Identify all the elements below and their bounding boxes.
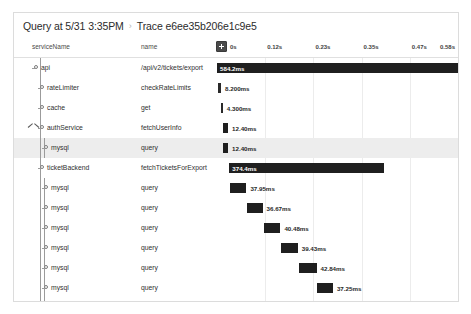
- span-toggle-dot[interactable]: [44, 225, 48, 229]
- span-operation-name: query: [141, 224, 158, 231]
- span-row[interactable]: mysqlquery12.40ms: [14, 138, 458, 158]
- chevron-up-icon[interactable]: [28, 124, 37, 130]
- span-service-name: api: [41, 64, 50, 71]
- span-toggle-dot[interactable]: [40, 85, 44, 89]
- span-row[interactable]: mysqlquery37.95ms: [14, 178, 458, 198]
- tree-guide-line: [40, 238, 41, 258]
- span-duration-label: 4.300ms: [227, 105, 251, 112]
- span-row[interactable]: authServicefetchUserInfo12.40ms: [14, 118, 458, 138]
- span-service-name: mysql: [51, 224, 69, 231]
- span-duration-bar[interactable]: [223, 143, 228, 153]
- column-header-service-name: serviceName: [32, 43, 70, 50]
- span-service-name: mysql: [51, 144, 69, 151]
- span-row[interactable]: mysqlquery35.92ms: [14, 298, 458, 302]
- breadcrumb-separator-icon: ›: [129, 21, 132, 31]
- timeline-tick-label: 0.58s: [440, 44, 455, 50]
- span-service-name: mysql: [51, 284, 69, 291]
- span-duration-label: 39.43ms: [302, 245, 326, 252]
- span-rows: api/api/v2/tickets/export584.2msrateLimi…: [14, 58, 458, 301]
- span-row[interactable]: mysqlquery36.67ms: [14, 198, 458, 218]
- breadcrumb-trace-title: Trace e6ee35b206e1c9e5: [137, 20, 257, 32]
- span-duration-label: 37.95ms: [250, 185, 274, 192]
- tree-guide-line: [40, 138, 41, 158]
- span-operation-name: query: [141, 264, 158, 271]
- span-duration-label: 40.48ms: [284, 225, 308, 232]
- span-operation-name: query: [141, 204, 158, 211]
- timeline-ruler: 0s0.12s0.23s0.35s0.47s0.58s: [217, 38, 458, 57]
- timeline-tick-label: 0.23s: [315, 44, 330, 50]
- span-toggle-dot[interactable]: [44, 205, 48, 209]
- timeline-tick-label: 0.35s: [364, 44, 379, 50]
- span-service-name: cache: [47, 104, 65, 111]
- span-row[interactable]: mysqlquery40.48ms: [14, 218, 458, 238]
- tree-guide-line: [44, 298, 45, 302]
- span-service-name: mysql: [51, 264, 69, 271]
- span-operation-name: get: [141, 104, 150, 111]
- timeline-gridline: [458, 58, 459, 301]
- timeline-tick-label: 0s: [230, 44, 237, 50]
- span-operation-name: query: [141, 184, 158, 191]
- span-toggle-dot[interactable]: [40, 105, 44, 109]
- span-operation-name: /api/v2/tickets/export: [141, 64, 203, 71]
- span-toggle-dot[interactable]: [44, 285, 48, 289]
- tree-guide-line: [40, 278, 41, 298]
- span-service-name: rateLimiter: [47, 84, 79, 91]
- tree-guide-line: [40, 198, 41, 218]
- tree-guide-line: [40, 178, 41, 198]
- span-duration-bar[interactable]: [264, 223, 281, 233]
- span-duration-bar[interactable]: [223, 123, 228, 133]
- span-duration-label: 37.25ms: [337, 285, 361, 292]
- span-duration-label: 12.40ms: [232, 145, 256, 152]
- span-row[interactable]: cacheget4.300ms: [14, 98, 458, 118]
- span-duration-label: 374.4ms: [232, 165, 256, 172]
- span-row[interactable]: mysqlquery39.43ms: [14, 238, 458, 258]
- span-toggle-dot[interactable]: [40, 165, 44, 169]
- span-duration-label: 12.40ms: [232, 125, 256, 132]
- span-duration-bar[interactable]: [281, 243, 297, 253]
- span-operation-name: query: [141, 284, 158, 291]
- span-duration-bar[interactable]: [221, 103, 223, 113]
- span-duration-bar[interactable]: [299, 263, 317, 273]
- span-operation-name: fetchUserInfo: [141, 124, 181, 131]
- span-duration-bar[interactable]: [218, 83, 221, 93]
- span-duration-bar[interactable]: [317, 283, 332, 293]
- span-duration-bar[interactable]: [247, 203, 262, 213]
- span-service-name: mysql: [51, 244, 69, 251]
- span-duration-label: 8.200ms: [225, 85, 249, 92]
- span-service-name: ticketBackend: [47, 164, 89, 171]
- span-duration-label: 36.67ms: [267, 205, 291, 212]
- span-duration-bar[interactable]: [230, 183, 246, 193]
- timeline-tick-label: 0.12s: [267, 44, 282, 50]
- span-toggle-dot[interactable]: [44, 145, 48, 149]
- span-row[interactable]: rateLimitercheckRateLimits8.200ms: [14, 78, 458, 98]
- span-service-name: mysql: [51, 204, 69, 211]
- column-header-name: name: [141, 43, 157, 50]
- timeline-tick-label: 0.47s: [412, 44, 427, 50]
- span-operation-name: query: [141, 244, 158, 251]
- breadcrumb: Query at 5/31 3:35PM › Trace e6ee35b206e…: [14, 13, 458, 38]
- span-row[interactable]: api/api/v2/tickets/export584.2ms: [14, 58, 458, 78]
- breadcrumb-query-link[interactable]: Query at 5/31 3:35PM: [23, 20, 124, 32]
- tree-guide-line: [40, 298, 41, 302]
- trace-card: Query at 5/31 3:35PM › Trace e6ee35b206e…: [13, 12, 459, 302]
- span-toggle-dot[interactable]: [44, 185, 48, 189]
- span-row[interactable]: mysqlquery42.84ms: [14, 258, 458, 278]
- trace-detail-page: Query at 5/31 3:35PM › Trace e6ee35b206e…: [0, 0, 471, 314]
- span-duration-label: 584.2ms: [220, 65, 244, 72]
- span-operation-name: fetchTicketsForExport: [141, 164, 207, 171]
- span-toggle-dot[interactable]: [34, 65, 38, 69]
- tree-guide-line: [40, 218, 41, 238]
- span-operation-name: checkRateLimits: [141, 84, 191, 91]
- span-toggle-dot[interactable]: [44, 245, 48, 249]
- tree-guide-line: [40, 258, 41, 278]
- span-row[interactable]: ticketBackendfetchTicketsForExport374.4m…: [14, 158, 458, 178]
- span-service-name: mysql: [51, 184, 69, 191]
- span-service-name: authService: [47, 124, 83, 131]
- span-row[interactable]: mysqlquery37.25ms: [14, 278, 458, 298]
- span-operation-name: query: [141, 144, 158, 151]
- span-toggle-dot[interactable]: [44, 265, 48, 269]
- span-toggle-dot[interactable]: [40, 125, 44, 129]
- span-duration-label: 42.84ms: [321, 265, 345, 272]
- span-duration-bar[interactable]: [217, 63, 458, 73]
